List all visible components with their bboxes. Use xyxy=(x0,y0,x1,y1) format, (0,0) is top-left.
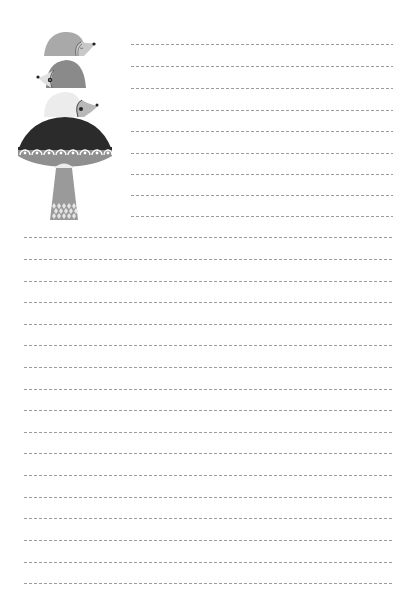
writing-line xyxy=(24,389,393,390)
writing-line xyxy=(131,195,393,196)
writing-line xyxy=(131,216,393,217)
hedgehog-bottom-icon xyxy=(44,92,99,117)
writing-line xyxy=(131,66,393,67)
mushroom-stem-icon xyxy=(50,168,78,220)
hedgehog-top-icon xyxy=(44,32,96,56)
writing-line xyxy=(24,497,393,498)
writing-line xyxy=(24,324,393,325)
writing-line xyxy=(24,432,393,433)
writing-line xyxy=(24,367,393,368)
writing-line xyxy=(131,88,393,89)
writing-line xyxy=(131,110,393,111)
writing-line xyxy=(24,475,393,476)
writing-line xyxy=(24,562,393,563)
writing-line xyxy=(24,518,393,519)
writing-line xyxy=(24,302,393,303)
writing-line xyxy=(24,453,393,454)
writing-line xyxy=(131,174,393,175)
writing-line xyxy=(131,44,393,45)
writing-line xyxy=(24,410,393,411)
writing-line xyxy=(24,540,393,541)
writing-line xyxy=(24,583,393,584)
hedgehog-middle-icon xyxy=(36,60,86,88)
writing-line xyxy=(131,131,393,132)
writing-line xyxy=(131,153,393,154)
writing-line xyxy=(24,259,393,260)
lined-note-page xyxy=(0,0,416,611)
hedgehogs-on-mushroom-illustration xyxy=(0,0,130,230)
writing-line xyxy=(24,237,393,238)
writing-line xyxy=(24,281,393,282)
writing-line xyxy=(24,345,393,346)
mushroom-cap-icon xyxy=(18,117,112,168)
